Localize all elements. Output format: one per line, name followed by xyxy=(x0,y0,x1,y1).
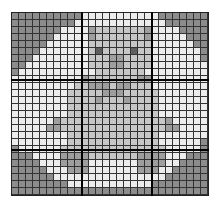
grid-cell[interactable] xyxy=(173,69,180,76)
grid-cell[interactable] xyxy=(96,97,103,104)
grid-cell[interactable] xyxy=(173,181,180,188)
grid-cell[interactable] xyxy=(138,188,145,195)
grid-cell[interactable] xyxy=(166,27,173,34)
grid-cell[interactable] xyxy=(19,118,26,125)
grid-cell[interactable] xyxy=(26,27,33,34)
grid-cell[interactable] xyxy=(194,90,201,97)
grid-cell[interactable] xyxy=(82,90,89,97)
grid-cell[interactable] xyxy=(103,48,110,55)
grid-cell[interactable] xyxy=(152,132,159,139)
grid-cell[interactable] xyxy=(96,104,103,111)
grid-cell[interactable] xyxy=(47,69,54,76)
grid-cell[interactable] xyxy=(82,181,89,188)
grid-cell[interactable] xyxy=(40,132,47,139)
grid-cell[interactable] xyxy=(201,160,208,167)
grid-cell[interactable] xyxy=(187,104,194,111)
grid-cell[interactable] xyxy=(61,118,68,125)
grid-cell[interactable] xyxy=(187,34,194,41)
grid-cell[interactable] xyxy=(54,153,61,160)
grid-cell[interactable] xyxy=(47,153,54,160)
grid-cell[interactable] xyxy=(68,20,75,27)
grid-cell[interactable] xyxy=(12,48,19,55)
grid-cell[interactable] xyxy=(54,69,61,76)
grid-cell[interactable] xyxy=(89,188,96,195)
grid-cell[interactable] xyxy=(47,174,54,181)
grid-cell[interactable] xyxy=(12,97,19,104)
grid-cell[interactable] xyxy=(40,188,47,195)
grid-cell[interactable] xyxy=(89,69,96,76)
grid-cell[interactable] xyxy=(33,104,40,111)
grid-cell[interactable] xyxy=(159,41,166,48)
grid-cell[interactable] xyxy=(131,55,138,62)
grid-cell[interactable] xyxy=(124,188,131,195)
grid-cell[interactable] xyxy=(103,90,110,97)
grid-cell[interactable] xyxy=(19,27,26,34)
grid-cell[interactable] xyxy=(166,174,173,181)
grid-cell[interactable] xyxy=(96,69,103,76)
grid-cell[interactable] xyxy=(117,13,124,20)
grid-cell[interactable] xyxy=(194,27,201,34)
grid-cell[interactable] xyxy=(82,111,89,118)
grid-cell[interactable] xyxy=(180,69,187,76)
grid-cell[interactable] xyxy=(33,41,40,48)
grid-cell[interactable] xyxy=(201,13,208,20)
grid-cell[interactable] xyxy=(33,118,40,125)
grid-cell[interactable] xyxy=(166,104,173,111)
grid-cell[interactable] xyxy=(26,118,33,125)
grid-cell[interactable] xyxy=(152,34,159,41)
grid-cell[interactable] xyxy=(47,62,54,69)
grid-cell[interactable] xyxy=(103,188,110,195)
grid-cell[interactable] xyxy=(194,13,201,20)
grid-cell[interactable] xyxy=(96,41,103,48)
grid-cell[interactable] xyxy=(54,97,61,104)
grid-cell[interactable] xyxy=(40,111,47,118)
grid-cell[interactable] xyxy=(194,20,201,27)
grid-cell[interactable] xyxy=(19,132,26,139)
grid-cell[interactable] xyxy=(166,181,173,188)
grid-cell[interactable] xyxy=(180,111,187,118)
grid-cell[interactable] xyxy=(124,104,131,111)
grid-cell[interactable] xyxy=(61,20,68,27)
grid-cell[interactable] xyxy=(194,62,201,69)
grid-cell[interactable] xyxy=(40,83,47,90)
grid-cell[interactable] xyxy=(124,69,131,76)
grid-cell[interactable] xyxy=(54,34,61,41)
grid-cell[interactable] xyxy=(19,48,26,55)
grid-cell[interactable] xyxy=(110,90,117,97)
grid-cell[interactable] xyxy=(54,132,61,139)
grid-cell[interactable] xyxy=(96,160,103,167)
grid-cell[interactable] xyxy=(12,62,19,69)
grid-cell[interactable] xyxy=(194,181,201,188)
grid-cell[interactable] xyxy=(96,90,103,97)
grid-cell[interactable] xyxy=(187,83,194,90)
grid-cell[interactable] xyxy=(173,125,180,132)
grid-cell[interactable] xyxy=(54,104,61,111)
grid-cell[interactable] xyxy=(159,132,166,139)
grid-cell[interactable] xyxy=(26,62,33,69)
grid-cell[interactable] xyxy=(166,160,173,167)
grid-cell[interactable] xyxy=(173,20,180,27)
grid-cell[interactable] xyxy=(138,13,145,20)
grid-cell[interactable] xyxy=(82,104,89,111)
grid-cell[interactable] xyxy=(138,83,145,90)
grid-cell[interactable] xyxy=(26,104,33,111)
grid-cell[interactable] xyxy=(68,90,75,97)
grid-cell[interactable] xyxy=(89,90,96,97)
grid-cell[interactable] xyxy=(173,34,180,41)
grid-cell[interactable] xyxy=(152,139,159,146)
grid-cell[interactable] xyxy=(131,160,138,167)
grid-cell[interactable] xyxy=(61,41,68,48)
grid-cell[interactable] xyxy=(19,13,26,20)
grid-cell[interactable] xyxy=(12,125,19,132)
grid-cell[interactable] xyxy=(131,167,138,174)
grid-cell[interactable] xyxy=(54,90,61,97)
grid-cell[interactable] xyxy=(89,125,96,132)
grid-cell[interactable] xyxy=(173,111,180,118)
grid-cell[interactable] xyxy=(152,181,159,188)
grid-cell[interactable] xyxy=(131,62,138,69)
grid-cell[interactable] xyxy=(110,188,117,195)
grid-cell[interactable] xyxy=(180,97,187,104)
grid-cell[interactable] xyxy=(19,34,26,41)
grid-cell[interactable] xyxy=(96,48,103,55)
grid-cell[interactable] xyxy=(117,153,124,160)
